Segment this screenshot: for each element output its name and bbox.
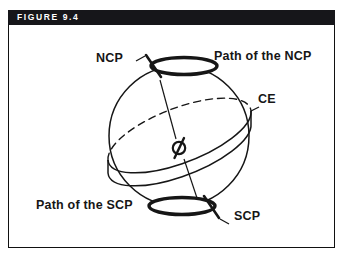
label-path-of-the-ncp: Path of the NCP	[214, 49, 311, 63]
label-scp: SCP	[234, 209, 260, 223]
leader-line-scp	[220, 219, 229, 224]
label-path-of-the-scp: Path of the SCP	[36, 198, 133, 212]
figure-caption-bar: FIGURE 9.4	[8, 10, 335, 25]
label-ncp: NCP	[96, 51, 123, 65]
label-ce: CE	[258, 92, 276, 106]
figure-number-label: FIGURE 9.4	[17, 12, 79, 23]
precession-circle-north	[151, 58, 217, 75]
figure-root: FIGURE 9.4	[0, 0, 354, 255]
leader-line-ncp	[136, 56, 145, 61]
earth-at-center	[173, 138, 185, 158]
precession-circle-south	[149, 198, 215, 215]
leader-line-ce	[251, 107, 259, 111]
axis-line-to-ncp	[160, 80, 176, 139]
